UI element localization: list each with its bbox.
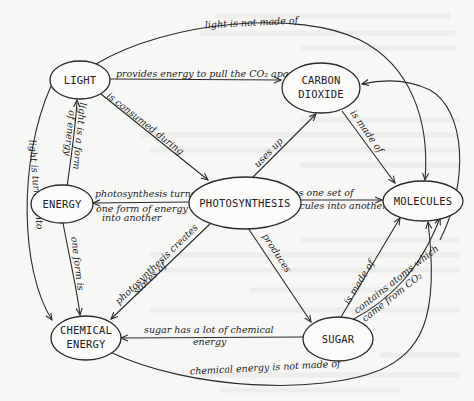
node-chemical-energy-label-1: CHEMICAL (60, 324, 112, 336)
node-light-label: LIGHT (64, 74, 97, 86)
node-molecules: MOLECULES (383, 181, 463, 221)
label-photo-energy-3: into another (102, 212, 163, 223)
node-carbon-dioxide: CARBON DIOXIDE (282, 63, 360, 113)
node-sugar-label: SUGAR (322, 333, 355, 345)
label-photo-energy-1: photosynthesis turns (95, 188, 196, 199)
node-photosynthesis-label: PHOTOSYNTHESIS (199, 197, 290, 209)
node-sugar: SUGAR (303, 317, 373, 361)
node-carbon-dioxide-label-2: DIOXIDE (298, 88, 344, 100)
label-sugar-chem-2: energy (193, 336, 227, 347)
node-photosynthesis: PHOTOSYNTHESIS (189, 177, 301, 229)
concept-map: light is not made of provides energy to … (0, 0, 474, 401)
node-energy-label: ENERGY (42, 198, 82, 210)
label-light-provides: provides energy to pull the CO₂ apart (116, 68, 297, 79)
node-chemical-energy-label-2: ENERGY (66, 338, 106, 350)
label-sugar-chem-1: sugar has a lot of chemical (144, 324, 274, 335)
node-chemical-energy: CHEMICAL ENERGY (51, 316, 121, 360)
node-light: LIGHT (50, 61, 110, 99)
node-energy: ENERGY (31, 185, 93, 223)
node-carbon-dioxide-label-1: CARBON (301, 74, 340, 86)
node-molecules-label: MOLECULES (394, 195, 453, 207)
